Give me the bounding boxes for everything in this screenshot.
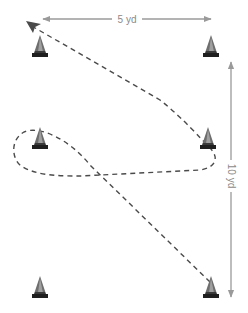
- cone-middle-right-icon: [200, 127, 216, 149]
- width-dimension: 5 yd: [43, 14, 211, 25]
- width-dimension-label: 5 yd: [118, 14, 137, 25]
- cone-bottom-left-icon: [32, 276, 48, 298]
- cone-bottom-right-icon: [203, 276, 219, 298]
- path-diagonal-bottom: [14, 25, 215, 282]
- running-path: [14, 21, 215, 282]
- cone-drill-diagram: 5 yd 10 yd: [0, 0, 248, 313]
- cones: [32, 35, 219, 298]
- cone-top-left-icon: [32, 35, 48, 57]
- height-dimension-label: 10 yd: [226, 164, 237, 188]
- height-dimension: 10 yd: [226, 62, 237, 297]
- cone-top-right-icon: [203, 35, 219, 57]
- path-end-arrow-icon: [26, 21, 41, 33]
